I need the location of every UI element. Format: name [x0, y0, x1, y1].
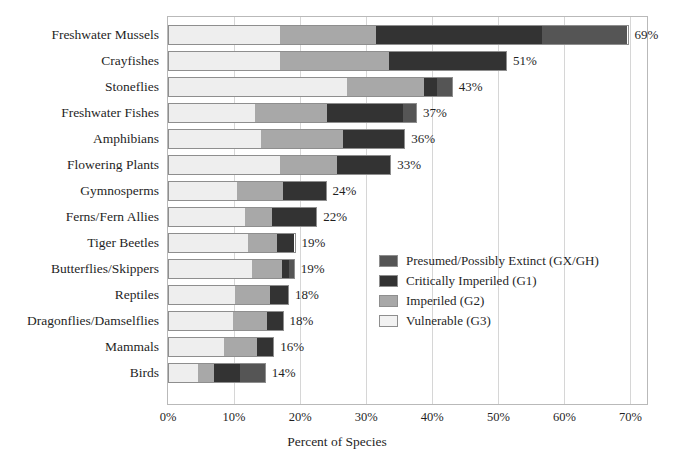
legend-item[interactable]: Vulnerable (G3) [379, 311, 599, 331]
legend-label: Presumed/Possibly Extinct (GX/GH) [406, 253, 599, 269]
bar-segment [214, 364, 241, 382]
bar-segment [257, 338, 273, 356]
stacked-bar [168, 285, 289, 305]
bar-segment [224, 338, 257, 356]
bar-segment [289, 260, 294, 278]
stacked-bar [168, 25, 629, 45]
legend-label: Imperiled (G2) [406, 293, 484, 309]
bar-value-label: 19% [296, 230, 326, 256]
stacked-bar [168, 233, 296, 253]
category-label: Birds [130, 360, 168, 386]
category-label: Amphibians [93, 126, 168, 152]
bar-value-label: 18% [284, 308, 314, 334]
category-label: Stoneflies [105, 74, 168, 100]
stacked-bar [168, 363, 266, 383]
stacked-bar [168, 181, 327, 201]
bar-segment [248, 234, 277, 252]
bar-segment [280, 52, 389, 70]
bar-row: Ferns/Fern Allies22% [168, 204, 647, 230]
x-tick-label: 50% [468, 410, 528, 425]
legend-swatch-icon [379, 295, 398, 307]
bar-segment [255, 104, 327, 122]
bar-segment [169, 130, 261, 148]
bar-segment [240, 364, 265, 382]
stacked-bar [168, 77, 453, 97]
bar-value-label: 24% [327, 178, 357, 204]
bar-value-label: 16% [274, 334, 304, 360]
bar-segment [327, 104, 403, 122]
plot-area: Freshwater Mussels69%Crayfishes51%Stonef… [167, 16, 648, 405]
bar-segment [237, 182, 283, 200]
bar-value-label: 69% [629, 22, 659, 48]
x-tick-label: 70% [600, 410, 660, 425]
stacked-bar [168, 103, 417, 123]
x-tick-label: 40% [402, 410, 462, 425]
category-label: Tiger Beetles [87, 230, 168, 256]
bar-segment [245, 208, 272, 226]
bar-segment [389, 52, 506, 70]
bar-value-label: 19% [295, 256, 325, 282]
bar-row: Mammals16% [168, 334, 647, 360]
category-label: Freshwater Fishes [61, 100, 168, 126]
bar-segment [169, 52, 280, 70]
legend-label: Vulnerable (G3) [406, 313, 491, 329]
x-tick-label: 0% [138, 410, 198, 425]
bar-segment [403, 104, 416, 122]
legend-item[interactable]: Critically Imperiled (G1) [379, 271, 599, 291]
stacked-bar [168, 129, 405, 149]
chart-legend: Presumed/Possibly Extinct (GX/GH)Critica… [379, 251, 599, 331]
bar-segment [169, 78, 347, 96]
legend-swatch-icon [379, 255, 398, 267]
stacked-bar-chart: Freshwater Mussels69%Crayfishes51%Stonef… [0, 0, 674, 471]
bar-segment [235, 286, 270, 304]
bar-segment [169, 312, 233, 330]
legend-item[interactable]: Imperiled (G2) [379, 291, 599, 311]
category-label: Reptiles [115, 282, 168, 308]
bar-segment [169, 208, 245, 226]
x-tick-label: 10% [204, 410, 264, 425]
x-tick-label: 20% [270, 410, 330, 425]
bar-segment [169, 338, 224, 356]
bar-segment [261, 130, 343, 148]
bar-row: Gymnosperms24% [168, 178, 647, 204]
bar-row: Stoneflies43% [168, 74, 647, 100]
legend-item[interactable]: Presumed/Possibly Extinct (GX/GH) [379, 251, 599, 271]
bar-segment [437, 78, 451, 96]
category-label: Freshwater Mussels [51, 22, 168, 48]
bar-value-label: 14% [266, 360, 296, 386]
bar-segment [169, 364, 198, 382]
bar-segment [169, 104, 255, 122]
bar-segment [280, 156, 337, 174]
x-axis-title: Percent of Species [0, 434, 674, 450]
bar-segment [252, 260, 283, 278]
bar-segment [169, 26, 280, 44]
bar-value-label: 36% [405, 126, 435, 152]
bar-segment [169, 156, 280, 174]
bar-row: Crayfishes51% [168, 48, 647, 74]
category-label: Crayfishes [101, 48, 168, 74]
bar-value-label: 22% [317, 204, 347, 230]
bar-segment [424, 78, 438, 96]
legend-swatch-icon [379, 315, 398, 327]
bar-segment [267, 312, 283, 330]
stacked-bar [168, 155, 391, 175]
x-tick-label: 30% [336, 410, 396, 425]
bar-value-label: 43% [453, 74, 483, 100]
stacked-bar [168, 207, 317, 227]
category-label: Butterflies/Skippers [51, 256, 168, 282]
x-tick-label: 60% [534, 410, 594, 425]
bar-value-label: 51% [507, 48, 537, 74]
category-label: Flowering Plants [67, 152, 168, 178]
bar-row: Birds14% [168, 360, 647, 386]
bar-segment [169, 286, 235, 304]
bar-segment [343, 130, 405, 148]
bar-segment [272, 208, 316, 226]
bar-segment [169, 234, 248, 252]
bar-segment [169, 182, 237, 200]
stacked-bar [168, 311, 284, 331]
stacked-bar [168, 51, 507, 71]
stacked-bar [168, 337, 274, 357]
bar-segment [376, 26, 542, 44]
bar-row: Freshwater Fishes37% [168, 100, 647, 126]
bar-value-label: 37% [417, 100, 447, 126]
